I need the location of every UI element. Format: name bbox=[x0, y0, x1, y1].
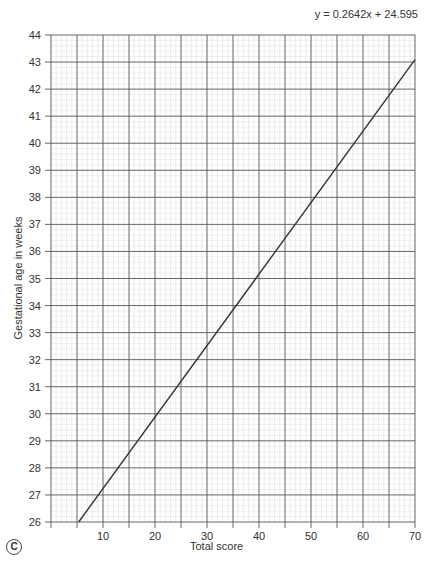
y-tick-label: 43 bbox=[29, 56, 41, 68]
y-tick-label: 31 bbox=[29, 381, 41, 393]
y-tick-label: 26 bbox=[29, 516, 41, 528]
y-tick-label: 29 bbox=[29, 435, 41, 447]
y-tick-label: 33 bbox=[29, 327, 41, 339]
y-tick-label: 40 bbox=[29, 137, 41, 149]
y-tick-label: 28 bbox=[29, 462, 41, 474]
y-tick-label: 35 bbox=[29, 273, 41, 285]
y-tick-label: 30 bbox=[29, 408, 41, 420]
y-tick-label: 34 bbox=[29, 300, 41, 312]
chart-plot-area: 2627282930313233343536373839404142434410… bbox=[0, 0, 433, 563]
panel-label: C bbox=[6, 539, 22, 555]
y-tick-label: 41 bbox=[29, 110, 41, 122]
y-tick-label: 36 bbox=[29, 245, 41, 257]
x-tick-label: 10 bbox=[97, 530, 109, 542]
y-axis-label: Gestational age in weeks bbox=[12, 208, 24, 348]
x-tick-label: 20 bbox=[149, 530, 161, 542]
y-tick-label: 37 bbox=[29, 218, 41, 230]
y-tick-label: 27 bbox=[29, 489, 41, 501]
x-tick-label: 70 bbox=[409, 530, 421, 542]
x-tick-label: 40 bbox=[253, 530, 265, 542]
y-tick-label: 38 bbox=[29, 191, 41, 203]
x-axis-label: Total score bbox=[190, 540, 243, 552]
x-tick-label: 60 bbox=[357, 530, 369, 542]
x-tick-label: 50 bbox=[305, 530, 317, 542]
y-tick-label: 39 bbox=[29, 164, 41, 176]
y-tick-label: 32 bbox=[29, 354, 41, 366]
y-tick-label: 44 bbox=[29, 29, 41, 41]
y-tick-label: 42 bbox=[29, 83, 41, 95]
